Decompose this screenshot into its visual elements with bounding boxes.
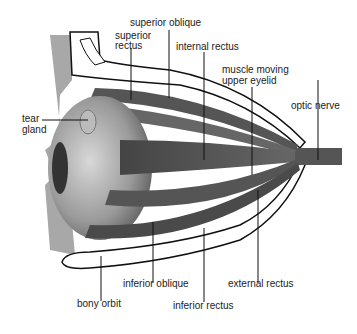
label-bony-orbit: bony orbit	[77, 298, 121, 309]
label-internal-rectus: internal rectus	[176, 41, 239, 52]
label-tear-gland-2: gland	[22, 124, 46, 135]
label-optic-nerve: optic nerve	[291, 100, 340, 111]
label-superior-rectus-2: rectus	[115, 40, 142, 51]
label-inferior-rectus: inferior rectus	[173, 300, 234, 311]
label-superior-oblique: superior oblique	[130, 17, 201, 28]
label-muscle-eyelid-2: upper eyelid	[222, 75, 276, 86]
eye-muscles-diagram: superior oblique superior rectus interna…	[0, 0, 357, 334]
tear-gland	[80, 110, 96, 134]
cornea	[52, 142, 68, 194]
label-external-rectus: external rectus	[228, 278, 294, 289]
label-tear-gland: tear	[22, 113, 39, 124]
optic-nerve	[290, 148, 342, 165]
label-inferior-oblique: inferior oblique	[123, 278, 189, 289]
label-muscle-eyelid: muscle moving	[222, 64, 289, 75]
